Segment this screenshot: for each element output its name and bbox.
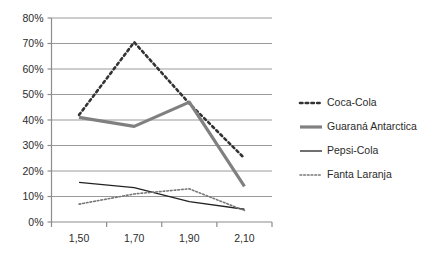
legend-label: Coca-Cola [327,96,377,108]
x-tick-label: 1,90 [179,232,200,244]
legend-label: Fanta Laranja [327,168,392,180]
chart-container: 0%10%20%30%40%50%60%70%80% 1,501,701,902… [0,0,430,262]
x-tick-label: 2,10 [234,232,255,244]
x-tick-label: 1,70 [124,232,145,244]
legend-label: Pepsi-Cola [327,144,379,156]
y-tick-label: 10% [22,190,43,202]
legend-label: Guaraná Antarctica [327,120,417,132]
y-tick-label: 80% [22,12,43,24]
y-tick-label: 60% [22,63,43,75]
y-tick-label: 70% [22,37,43,49]
y-tick-label: 40% [22,114,43,126]
x-tick-label: 1,50 [69,232,90,244]
y-tick-label: 50% [22,88,43,100]
y-tick-label: 0% [28,216,43,228]
y-tick-label: 30% [22,139,43,151]
line-chart: 0%10%20%30%40%50%60%70%80% 1,501,701,902… [0,0,430,262]
y-tick-label: 20% [22,165,43,177]
y-axis-tick-labels: 0%10%20%30%40%50%60%70%80% [22,12,43,228]
